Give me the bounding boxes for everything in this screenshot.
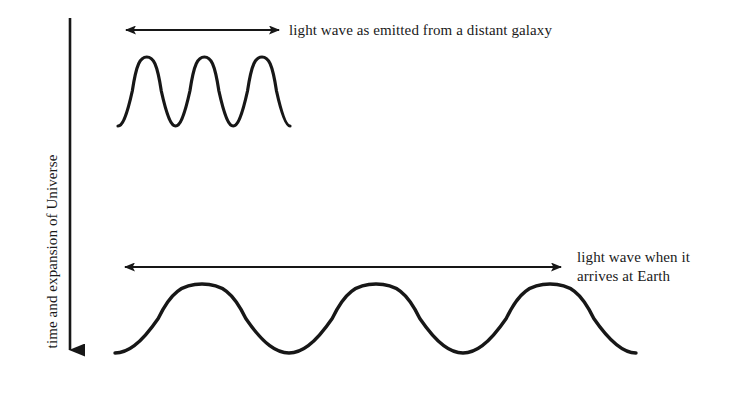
- emitted-wave-label: light wave as emitted from a distant gal…: [289, 21, 552, 40]
- diagram-canvas: [0, 0, 749, 403]
- arrived-wave: [115, 284, 636, 353]
- redshift-diagram: light wave as emitted from a distant gal…: [0, 0, 749, 403]
- emitted-wave: [118, 57, 290, 126]
- arrived-wave-label: light wave when it arrives at Earth: [577, 248, 690, 286]
- time-axis-label: time and expansion of Universe: [44, 137, 61, 367]
